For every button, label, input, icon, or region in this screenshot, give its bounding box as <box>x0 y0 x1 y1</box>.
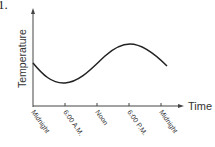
x-tick-labels: Midnight 6:00 A.M. Noon 6:00 P.M. Midnig… <box>29 109 179 137</box>
temperature-curve <box>33 44 167 83</box>
temperature-chart: Time Temperature Midnight 6:00 A.M. Noon… <box>0 0 215 147</box>
tick-label-midnight-start: Midnight <box>29 109 51 135</box>
y-axis-arrow-icon <box>31 8 35 14</box>
tick-label-noon: Noon <box>94 109 109 127</box>
x-axis-arrow-icon <box>178 104 184 108</box>
tick-label-midnight-end: Midnight <box>157 109 179 135</box>
y-axis-label: Temperature <box>16 29 28 88</box>
tick-label-6pm: 6:00 P.M. <box>126 109 148 137</box>
x-axis-label: Time <box>188 100 212 112</box>
tick-label-6am: 6:00 A.M. <box>62 109 85 137</box>
